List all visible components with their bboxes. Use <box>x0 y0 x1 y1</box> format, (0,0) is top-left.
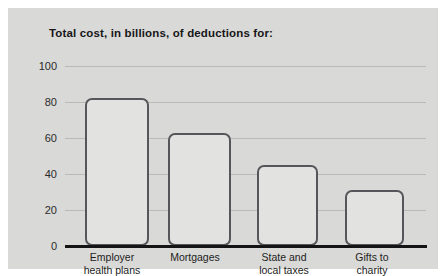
bar-mortgages[interactable] <box>168 133 231 246</box>
bar-chart-figure: Total cost, in billions, of deductions f… <box>0 0 446 276</box>
y-tick-label-40: 40 <box>45 168 57 180</box>
y-tick-label-100: 100 <box>39 60 57 72</box>
x-tick-label-state-and-local-taxes: State and local taxes <box>249 251 319 276</box>
chart-panel: Total cost, in billions, of deductions f… <box>8 8 438 269</box>
y-tick-label-60: 60 <box>45 132 57 144</box>
x-tick-label-gifts-to-charity: Gifts to charity <box>337 251 407 276</box>
y-tick-label-20: 20 <box>45 204 57 216</box>
bar-employer-health-plans[interactable] <box>85 98 149 246</box>
y-tick-label-80: 80 <box>45 96 57 108</box>
x-tick-label-employer-health-plans: Employer health plans <box>77 251 147 276</box>
y-tick-label-0: 0 <box>51 240 57 252</box>
bar-gifts-to-charity[interactable] <box>345 190 404 246</box>
bar-state-and-local-taxes[interactable] <box>257 165 318 246</box>
x-axis-line <box>65 245 427 248</box>
plot-area: 100 80 60 40 20 0 <box>65 66 426 246</box>
chart-title: Total cost, in billions, of deductions f… <box>49 27 273 39</box>
gridline-100: 100 <box>65 66 426 67</box>
x-tick-label-mortgages: Mortgages <box>160 251 230 264</box>
